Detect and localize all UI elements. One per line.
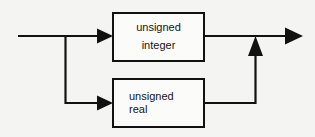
node-unsigned-real: unsigned real — [112, 78, 205, 128]
node-unsigned-integer: unsigned integer — [112, 12, 205, 62]
node-unsigned-real-line-2: real — [129, 104, 147, 116]
node-unsigned-real-line-1: unsigned — [129, 91, 174, 103]
exit-arrowhead-icon — [285, 28, 303, 45]
merge-arrowhead-icon — [248, 36, 263, 56]
node-unsigned-integer-line-1: unsigned — [136, 22, 181, 34]
syntax-diagram: unsigned integer unsigned real — [0, 0, 315, 137]
bottom-branch-arrowhead-icon — [97, 96, 113, 111]
top-branch-arrowhead-icon — [97, 29, 113, 44]
node-unsigned-integer-line-2: integer — [142, 40, 176, 52]
